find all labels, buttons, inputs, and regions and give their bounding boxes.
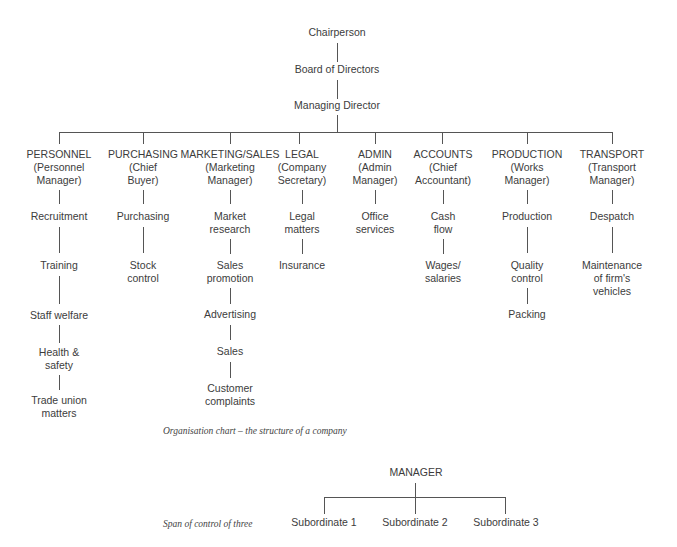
connector-line <box>505 497 506 514</box>
connector-line <box>230 362 231 378</box>
connector-line <box>59 375 60 390</box>
function-despatch: Despatch <box>590 210 634 223</box>
connector-line <box>442 132 443 144</box>
connector-line <box>59 325 60 343</box>
connector-line <box>443 239 444 254</box>
connector-line <box>612 227 613 253</box>
connector-line <box>612 190 613 204</box>
connector-line <box>59 227 60 253</box>
function-sales: Sales <box>217 345 243 358</box>
department-admin: ADMIN (Admin Manager) <box>353 148 398 187</box>
connector-line <box>527 132 528 144</box>
function-vehicle-maintenance: Maintenance of firm's vehicles <box>582 259 642 298</box>
subordinate-3-node: Subordinate 3 <box>473 516 538 529</box>
department-production: PRODUCTION (Works Manager) <box>492 148 563 187</box>
connector-line <box>527 227 528 253</box>
span-chart-caption: Span of control of three <box>163 519 253 529</box>
department-personnel: PERSONNEL (Personnel Manager) <box>27 148 92 187</box>
function-recruitment: Recruitment <box>31 210 88 223</box>
connector-line <box>230 132 231 144</box>
manager-node: MANAGER <box>389 466 442 479</box>
connector-line <box>299 132 300 144</box>
connector-line <box>230 288 231 304</box>
function-advertising: Advertising <box>204 308 256 321</box>
function-staff-welfare: Staff welfare <box>30 309 88 322</box>
connector-line <box>143 190 144 204</box>
function-training: Training <box>40 259 78 272</box>
connector-line <box>443 190 444 204</box>
connector-line <box>59 276 60 304</box>
function-packing: Packing <box>508 308 545 321</box>
connector-line <box>59 132 60 144</box>
managing-director-node: Managing Director <box>294 99 380 112</box>
connector-line <box>143 227 144 253</box>
function-customer-complaints: Customer complaints <box>205 382 255 408</box>
function-cash-flow: Cash flow <box>431 210 456 236</box>
department-marketing-sales: MARKETING/SALES (Marketing Manager) <box>180 148 279 187</box>
function-legal-matters: Legal matters <box>284 210 319 236</box>
connector-line <box>230 325 231 340</box>
department-purchasing: PURCHASING (Chief Buyer) <box>108 148 178 187</box>
subordinate-bar <box>324 497 506 498</box>
function-insurance: Insurance <box>279 259 325 272</box>
chairperson-node: Chairperson <box>308 26 365 39</box>
function-sales-promotion: Sales promotion <box>207 259 254 285</box>
department-accounts: ACCOUNTS (Chief Accountant) <box>414 148 473 187</box>
function-office-services: Office services <box>356 210 395 236</box>
org-chart-caption: Organisation chart – the structure of a … <box>163 426 347 436</box>
board-of-directors-node: Board of Directors <box>295 63 380 76</box>
connector-line <box>230 190 231 204</box>
function-trade-union-matters: Trade union matters <box>31 394 87 420</box>
function-purchasing: Purchasing <box>117 210 170 223</box>
department-transport: TRANSPORT (Transport Manager) <box>580 148 645 187</box>
connector-line <box>337 80 338 99</box>
connector-line <box>337 115 338 132</box>
connector-line <box>375 132 376 144</box>
connector-line <box>230 239 231 254</box>
function-market-research: Market research <box>210 210 251 236</box>
function-quality-control: Quality control <box>511 259 544 285</box>
connector-line <box>612 132 613 144</box>
connector-line <box>143 132 144 144</box>
connector-line <box>337 43 338 62</box>
connector-line <box>302 239 303 254</box>
connector-line <box>59 190 60 204</box>
connector-line <box>324 497 325 514</box>
connector-line <box>302 190 303 204</box>
function-stock-control: Stock control <box>127 259 159 285</box>
connector-line <box>375 190 376 204</box>
department-legal: LEGAL (Company Secretary) <box>278 148 326 187</box>
function-wages-salaries: Wages/ salaries <box>425 259 461 285</box>
connector-line <box>527 190 528 204</box>
function-production: Production <box>502 210 552 223</box>
connector-line <box>415 483 416 514</box>
function-health-safety: Health & safety <box>39 346 79 372</box>
connector-line <box>527 288 528 304</box>
subordinate-2-node: Subordinate 2 <box>382 516 447 529</box>
subordinate-1-node: Subordinate 1 <box>291 516 356 529</box>
